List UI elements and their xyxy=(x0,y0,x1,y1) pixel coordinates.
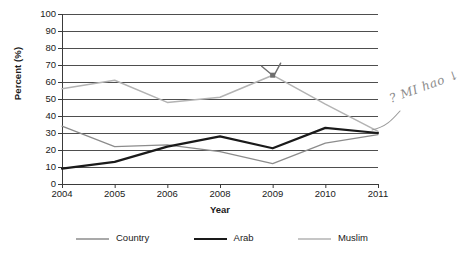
legend-item-arab[interactable]: Arab xyxy=(194,228,254,246)
series-line-arab xyxy=(62,128,378,169)
legend-swatch-arab xyxy=(194,228,227,246)
legend-swatch-country xyxy=(76,228,109,246)
handwritten-leader-line xyxy=(372,111,400,130)
chart-legend: CountryArabMuslim xyxy=(62,229,382,245)
line-chart-figure: Percent (%) Year 0102030405060708090100 … xyxy=(0,0,465,260)
legend-label-arab: Arab xyxy=(234,232,254,243)
legend-item-country[interactable]: Country xyxy=(76,228,149,246)
series-line-country xyxy=(62,126,378,163)
handwritten-mark-dot xyxy=(270,73,275,78)
legend-label-muslim: Muslim xyxy=(338,232,368,243)
series-line-muslim xyxy=(62,75,378,131)
legend-item-muslim[interactable]: Muslim xyxy=(298,228,368,246)
plot-area xyxy=(0,0,465,260)
legend-swatch-muslim xyxy=(298,228,331,246)
legend-label-country: Country xyxy=(116,232,149,243)
